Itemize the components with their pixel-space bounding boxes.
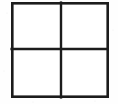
cell-bottom-right[interactable] (62, 50, 106, 96)
paper-speck (6, 12, 7, 13)
cell-top-right[interactable] (62, 4, 106, 48)
cell-bottom-left[interactable] (13, 50, 60, 96)
paper-speck (33, 102, 34, 103)
cell-top-left[interactable] (13, 4, 60, 48)
paper-speck (113, 30, 114, 31)
paper-speck (94, 100, 95, 101)
paper-speck (4, 71, 5, 72)
figure-canvas (0, 0, 118, 104)
two-by-two-grid-figure (0, 0, 118, 104)
